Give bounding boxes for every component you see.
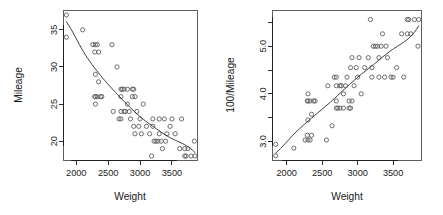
data-point bbox=[115, 65, 119, 69]
x-tick-label: 3000 bbox=[130, 168, 150, 178]
data-point bbox=[305, 133, 309, 137]
x-tick-label: 3500 bbox=[162, 168, 182, 178]
data-point bbox=[345, 75, 349, 79]
data-point bbox=[400, 32, 404, 36]
fit-curve-left bbox=[66, 22, 195, 153]
data-point bbox=[292, 146, 296, 150]
panel-mileage-vs-weight: 20253035 2000250030003500 Weight Mileage bbox=[0, 0, 221, 215]
data-point bbox=[383, 75, 387, 79]
data-point bbox=[274, 154, 278, 158]
data-point bbox=[132, 124, 136, 128]
data-point bbox=[110, 43, 114, 47]
data-point bbox=[81, 28, 85, 32]
data-point bbox=[350, 99, 354, 103]
y-tick-label: 3.0 bbox=[259, 135, 269, 148]
x-tick-label: 3500 bbox=[383, 168, 403, 178]
x-axis-ticks-left: 2000250030003500 bbox=[66, 161, 182, 179]
y-axis-title-left: Mileage bbox=[13, 67, 24, 103]
data-points-right bbox=[274, 17, 421, 157]
data-point bbox=[412, 17, 416, 21]
y-axis-ticks-left: 20253035 bbox=[50, 25, 64, 147]
plot-box-left bbox=[64, 11, 198, 161]
x-tick-label: 2500 bbox=[98, 168, 118, 178]
x-tick-label: 3000 bbox=[347, 168, 367, 178]
data-point bbox=[341, 92, 345, 96]
data-point bbox=[133, 132, 137, 136]
data-point bbox=[385, 56, 389, 60]
x-tick-label: 2500 bbox=[312, 168, 332, 178]
data-point bbox=[326, 84, 330, 88]
y-tick-label: 30 bbox=[50, 62, 60, 72]
fit-curve-right bbox=[276, 26, 419, 153]
fit-line bbox=[276, 26, 419, 153]
y-tick-label: 5.0 bbox=[259, 40, 269, 53]
data-point bbox=[192, 139, 196, 143]
data-point bbox=[377, 75, 381, 79]
data-point bbox=[157, 117, 161, 121]
y-axis-title-right: 100/Mileage bbox=[225, 57, 236, 113]
x-axis-title-right: Weight bbox=[331, 191, 363, 202]
data-point bbox=[274, 142, 278, 146]
data-point bbox=[141, 102, 145, 106]
data-point bbox=[352, 84, 356, 88]
data-point bbox=[173, 132, 177, 136]
data-point bbox=[139, 132, 143, 136]
data-point bbox=[384, 44, 388, 48]
data-point bbox=[330, 124, 334, 128]
data-point bbox=[149, 154, 153, 158]
data-point bbox=[416, 44, 420, 48]
data-point bbox=[111, 109, 115, 113]
data-point bbox=[366, 56, 370, 60]
data-point bbox=[357, 56, 361, 60]
data-point bbox=[370, 75, 374, 79]
data-point bbox=[162, 117, 166, 121]
plot-box-right bbox=[273, 11, 422, 161]
y-tick-label: 20 bbox=[50, 136, 60, 146]
data-point bbox=[168, 124, 172, 128]
data-point bbox=[178, 147, 182, 151]
data-points-left bbox=[64, 13, 197, 158]
y-axis-ticks-right: 3.04.05.0 bbox=[259, 17, 273, 147]
data-point bbox=[179, 117, 183, 121]
scatterplot-figure: 20253035 2000250030003500 Weight Mileage… bbox=[0, 0, 443, 215]
data-point bbox=[93, 102, 97, 106]
y-tick-label: 4.0 bbox=[259, 87, 269, 100]
data-point bbox=[363, 66, 367, 70]
data-point bbox=[160, 147, 164, 151]
data-point bbox=[348, 66, 352, 70]
data-point bbox=[309, 112, 313, 116]
data-point bbox=[306, 92, 310, 96]
data-point bbox=[64, 13, 68, 17]
x-axis-title-left: Weight bbox=[114, 191, 146, 202]
y-tick-label: 35 bbox=[50, 25, 60, 35]
data-point bbox=[359, 92, 363, 96]
data-point bbox=[417, 17, 421, 21]
data-point bbox=[395, 66, 399, 70]
data-point bbox=[148, 132, 152, 136]
data-point bbox=[334, 99, 338, 103]
data-point bbox=[368, 17, 372, 21]
data-point bbox=[137, 124, 141, 128]
x-axis-ticks-right: 2000250030003500 bbox=[276, 161, 403, 179]
data-point bbox=[309, 133, 313, 137]
data-point bbox=[97, 80, 101, 84]
data-point bbox=[144, 124, 148, 128]
data-point bbox=[128, 117, 132, 121]
data-point bbox=[324, 138, 328, 142]
data-point bbox=[354, 66, 358, 70]
data-point bbox=[93, 72, 97, 76]
y-tick-label: 25 bbox=[50, 99, 60, 109]
panel-inverse-mileage-vs-weight: 3.04.05.0 2000250030003500 Weight 100/Mi… bbox=[222, 0, 443, 215]
data-point bbox=[151, 117, 155, 121]
data-point bbox=[164, 139, 168, 143]
fit-line bbox=[66, 22, 195, 153]
x-tick-label: 2000 bbox=[276, 168, 296, 178]
data-point bbox=[170, 117, 174, 121]
x-tick-label: 2000 bbox=[66, 168, 86, 178]
data-point bbox=[402, 75, 406, 79]
data-point bbox=[64, 35, 68, 39]
data-point bbox=[350, 56, 354, 60]
data-point bbox=[133, 95, 137, 99]
data-point bbox=[380, 32, 384, 36]
